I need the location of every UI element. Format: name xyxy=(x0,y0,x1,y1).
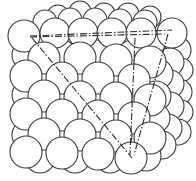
front-face-front-row-spheres xyxy=(10,42,166,174)
crystal-lattice-diagram xyxy=(0,0,196,181)
